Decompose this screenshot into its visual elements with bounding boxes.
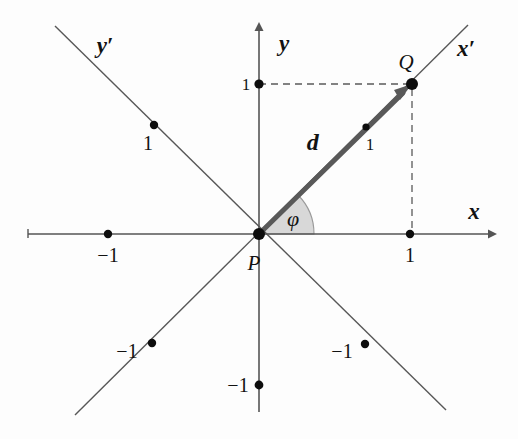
x-axis-arrowhead (488, 230, 497, 239)
point-p (253, 228, 265, 240)
unit-dot-x-neg (104, 230, 112, 238)
tick-label-x-pos: 1 (405, 245, 415, 265)
unit-dot-yprime-neg (361, 340, 369, 348)
tick-label-y-neg: −1 (227, 375, 248, 395)
unit-dot-x-pos (406, 230, 414, 238)
y-prime-axis-line (55, 26, 446, 410)
tick-label-xprime-neg: −1 (116, 341, 137, 361)
unit-dot-yprime-pos (150, 121, 158, 129)
tick-label-y-pos: 1 (242, 76, 251, 93)
vector-d-shaft (259, 93, 403, 234)
tick-label-x-neg: −1 (97, 245, 118, 265)
angle-phi-label: φ (287, 208, 299, 230)
unit-dot-xprime-pos (362, 123, 369, 130)
tick-label-yprime-neg: −1 (331, 341, 352, 361)
unit-dot-y-neg (255, 381, 264, 390)
tick-label-xprime-pos: 1 (366, 136, 375, 153)
y-prime-axis-label: y′ (97, 34, 114, 57)
coordinate-diagram: y x x′ y′ P Q d⃗ φ 1 −1 1 −1 1 −1 1 −1 (0, 0, 518, 439)
point-q-label: Q (398, 52, 413, 73)
y-axis-arrowhead (255, 22, 264, 31)
x-axis-label: x (468, 200, 480, 223)
diagram-canvas (0, 0, 518, 439)
point-q (406, 78, 418, 90)
tick-label-yprime-pos: 1 (143, 133, 153, 153)
vector-d-label: d⃗ (307, 130, 338, 154)
unit-dot-xprime-neg (148, 339, 156, 347)
x-prime-axis-label: x′ (457, 37, 475, 60)
point-p-label: P (248, 253, 261, 274)
y-axis-label: y (279, 32, 289, 55)
unit-dot-y-pos (254, 79, 263, 88)
